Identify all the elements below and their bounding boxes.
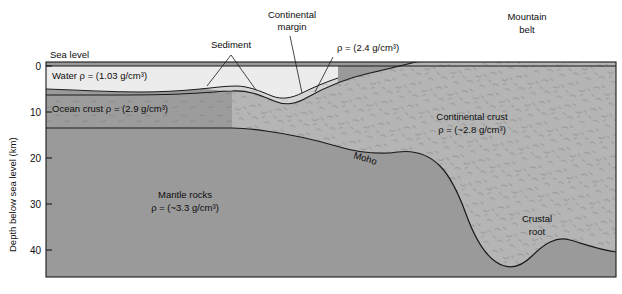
continental-crust-label-line1: Continental crust (436, 111, 508, 122)
mountain-belt-label-line1: Mountain (507, 11, 546, 22)
y-tick-30: 30 (30, 199, 42, 210)
crustal-root-label-line2: root (529, 226, 546, 237)
cross-section-canvas: 0 10 20 30 40 Depth below sea level (km)… (0, 0, 622, 294)
y-axis-tick-labels: 0 10 20 30 40 (30, 61, 42, 256)
y-tick-40: 40 (30, 245, 42, 256)
water-label: Water ρ = (1.03 g/cm³) (52, 70, 147, 81)
continental-margin-label-line1: Continental (268, 9, 316, 20)
sea-level-label: Sea level (50, 49, 89, 60)
ocean-crust-label: Ocean crust ρ = (2.9 g/cm³) (52, 103, 168, 114)
mantle-rocks-label-line2: ρ = (~3.3 g/cm³) (151, 202, 219, 213)
continental-margin-label-line2: margin (277, 21, 306, 32)
mantle-rocks-label-line1: Mantle rocks (158, 189, 212, 200)
y-tick-0: 0 (35, 61, 41, 72)
sediment-density-label: ρ = (2.4 g/cm³) (337, 42, 399, 53)
crustal-root-label-line1: Crustal (522, 213, 552, 224)
y-tick-10: 10 (30, 107, 42, 118)
geologic-cross-section-figure: 0 10 20 30 40 Depth below sea level (km)… (0, 0, 622, 294)
mountain-belt-label-line2: belt (519, 24, 535, 35)
y-tick-20: 20 (30, 153, 42, 164)
sediment-label: Sediment (211, 39, 251, 50)
y-axis-title: Depth below sea level (km) (7, 137, 18, 252)
continental-crust-label-line2: ρ = (~2.8 g/cm³) (438, 124, 506, 135)
